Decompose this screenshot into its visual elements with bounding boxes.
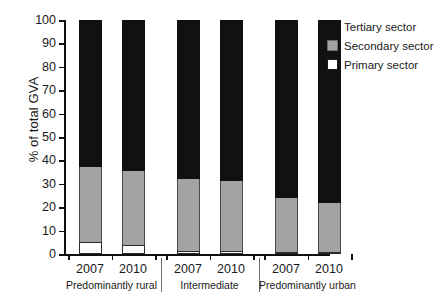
y-tick-label: 30 [42, 178, 56, 191]
x-tick-mark [351, 254, 353, 260]
x-tick-label: 2007 [263, 262, 309, 276]
white-swatch-icon [327, 59, 338, 70]
legend-item-secondary: Secondary sector [327, 37, 434, 54]
segment-primary [318, 252, 341, 254]
x-tick-label: 2010 [110, 262, 156, 276]
x-group-label: Predominantly rural [66, 279, 157, 291]
x-tick-label: 2010 [306, 262, 352, 276]
segment-primary [79, 242, 102, 254]
x-group-label: Predominantly urban [259, 279, 356, 291]
x-tick-mark [112, 254, 114, 260]
x-group-label: Intermediate [180, 279, 238, 291]
x-tick-mark [308, 254, 310, 260]
y-tick-mark [59, 231, 64, 233]
segment-tertiary [177, 20, 200, 179]
y-tick-label: 100 [35, 14, 56, 27]
gray-swatch-icon [327, 40, 338, 51]
legend-item-tertiary: Tertiary sector [327, 18, 434, 35]
y-tick-label: 80 [42, 61, 56, 74]
x-tick-mark [68, 254, 70, 260]
legend-item-primary: Primary sector [327, 56, 434, 73]
y-tick-mark [59, 114, 64, 116]
y-tick-label: 90 [42, 37, 56, 50]
plot-area: 0102030405060708090100 [64, 20, 330, 254]
y-tick-mark [59, 184, 64, 186]
y-tick-label: 0 [49, 248, 56, 261]
segment-tertiary [79, 20, 102, 167]
y-tick-mark [59, 160, 64, 162]
segment-secondary [79, 167, 102, 242]
y-tick-mark [59, 137, 64, 139]
x-axis-line [64, 254, 330, 256]
x-tick-label: 2007 [165, 262, 211, 276]
x-tick-label: 2010 [208, 262, 254, 276]
segment-tertiary [122, 20, 145, 171]
bar-stack [177, 20, 200, 254]
segment-secondary [122, 171, 145, 245]
x-tick-label: 2007 [67, 262, 113, 276]
segment-tertiary [220, 20, 243, 181]
legend-label: Primary sector [344, 59, 418, 71]
y-tick-mark [59, 67, 64, 69]
segment-primary [275, 252, 298, 254]
segment-secondary [275, 198, 298, 253]
black-swatch-icon [327, 21, 338, 32]
group-separator [161, 258, 162, 292]
segment-secondary [177, 179, 200, 250]
y-tick-label: 50 [42, 131, 56, 144]
segment-secondary [220, 181, 243, 250]
bar-stack [275, 20, 298, 254]
x-tick-mark [155, 254, 157, 260]
bar-stack [122, 20, 145, 254]
y-tick-mark [59, 43, 64, 45]
x-tick-mark [253, 254, 255, 260]
legend-label: Tertiary sector [344, 21, 416, 33]
legend-label: Secondary sector [344, 40, 434, 52]
segment-primary [177, 251, 200, 255]
y-tick-label: 60 [42, 107, 56, 120]
y-tick-mark [59, 254, 64, 256]
y-axis-title: % of total GVA [26, 40, 41, 200]
y-tick-label: 20 [42, 201, 56, 214]
y-tick-label: 70 [42, 84, 56, 97]
segment-primary [220, 251, 243, 255]
bar-stack [220, 20, 243, 254]
segment-tertiary [275, 20, 298, 198]
y-tick-mark [59, 207, 64, 209]
x-tick-mark [166, 254, 168, 260]
segment-primary [122, 245, 145, 254]
bar-stack [79, 20, 102, 254]
x-tick-mark [264, 254, 266, 260]
chart-legend: Tertiary sector Secondary sector Primary… [327, 18, 434, 75]
y-tick-label: 10 [42, 224, 56, 237]
x-tick-mark [210, 254, 212, 260]
segment-secondary [318, 203, 341, 253]
y-tick-mark [59, 20, 64, 22]
y-tick-mark [59, 90, 64, 92]
y-tick-label: 40 [42, 154, 56, 167]
